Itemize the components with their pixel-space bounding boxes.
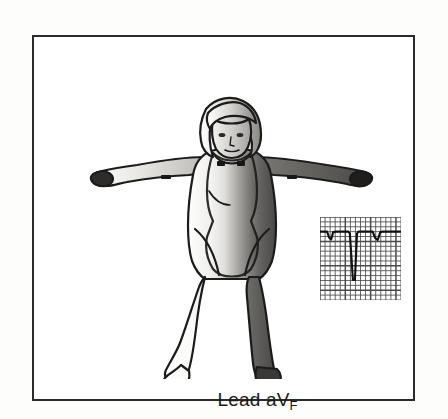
right-foot xyxy=(256,367,281,379)
right-leg xyxy=(247,277,279,379)
figure-root: Lead aVF © Cengage Learning 2014 xyxy=(0,0,448,419)
electrode-right-arm xyxy=(287,175,297,179)
left-hand xyxy=(91,171,113,186)
electrode-left-arm xyxy=(161,175,171,179)
figure-frame: Lead aVF xyxy=(32,35,415,401)
caption-lead-subscript: F xyxy=(290,398,298,413)
electrode-neck-right xyxy=(237,161,245,166)
right-hand xyxy=(350,171,372,186)
left-leg xyxy=(165,277,205,379)
right-eye xyxy=(237,133,244,137)
caption-lead-label: Lead aV xyxy=(217,389,289,410)
electrode-neck-left xyxy=(217,161,225,166)
figure-caption: Lead aVF xyxy=(66,389,448,413)
left-eye xyxy=(219,133,226,137)
ecg-strip xyxy=(320,217,401,300)
